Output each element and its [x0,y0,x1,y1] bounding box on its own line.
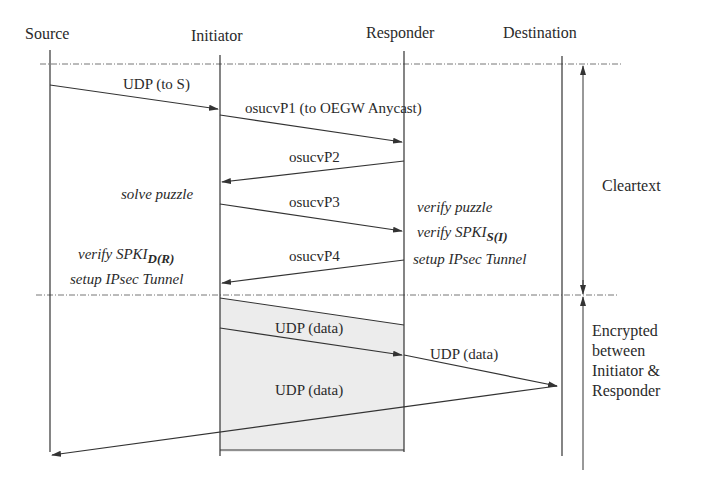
arrow-osucvp1 [220,115,402,142]
participant-destination: Destination [503,24,577,41]
phase-label-encrypted-line-4: Responder [592,381,660,401]
initiator-solve-puzzle: solve puzzle [121,186,193,203]
phase-label-cleartext: Cleartext [602,177,661,194]
responder-verify-spki-subscript: S(I) [487,229,508,244]
initiator-verify-spki-subscript: D(R) [148,251,175,266]
initiator-verify-spki: verify SPKID(R) [78,246,174,263]
message-label-udp-data-tunnel: UDP (data) [275,320,343,337]
sequence-diagram-canvas [0,0,701,484]
responder-verify-spki: verify SPKIS(I) [417,224,508,241]
message-label-udp-data-return: UDP (data) [275,382,343,399]
responder-verify-spki-text: verify SPKI [417,224,487,240]
participant-source: Source [25,25,69,42]
phase-label-encrypted-line-3: Initiator & [592,361,660,381]
message-label-osucvp2: osucvP2 [289,149,340,166]
message-label-udp-data-destination: UDP (data) [430,346,498,363]
responder-setup-tunnel: setup IPsec Tunnel [413,251,526,268]
phase-label-encrypted-line-1: Encrypted [592,321,660,341]
initiator-setup-tunnel: setup IPsec Tunnel [70,271,183,288]
participant-initiator: Initiator [191,27,243,44]
initiator-verify-spki-text: verify SPKI [78,246,148,262]
message-label-osucvp1: osucvP1 (to OEGW Anycast) [245,100,422,117]
phase-label-encrypted-line-2: between [592,341,660,361]
participant-responder: Responder [366,24,434,41]
message-label-udp-to-s: UDP (to S) [123,76,190,93]
phase-label-encrypted: Encrypted between Initiator & Responder [592,321,660,401]
responder-verify-puzzle: verify puzzle [417,199,492,216]
message-label-osucvp3: osucvP3 [289,194,340,211]
message-label-osucvp4: osucvP4 [289,248,340,265]
